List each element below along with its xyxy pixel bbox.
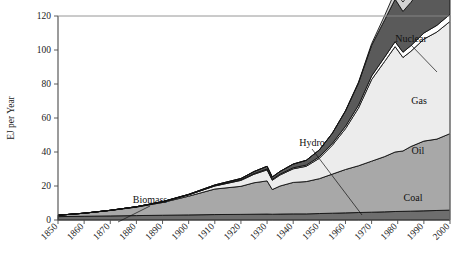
- y-axis-title: EJ per Year: [6, 95, 16, 139]
- x-tick-label: 1860: [65, 221, 86, 242]
- x-tick-label: 1890: [143, 221, 164, 242]
- series-label-nuclear: Nuclear: [395, 33, 427, 44]
- x-tick-label: 1980: [379, 221, 400, 242]
- series-label-biomass: Biomass: [133, 194, 168, 205]
- series-label-hydro: Hydro: [299, 137, 325, 148]
- x-tick-label: 2000: [431, 221, 452, 242]
- series-label-coal: Coal: [404, 192, 423, 203]
- y-tick-label: 20: [42, 181, 52, 191]
- x-tick-label: 1920: [222, 221, 243, 242]
- y-tick-label: 60: [42, 113, 52, 123]
- series-label-oil: Oil: [412, 145, 425, 156]
- x-tick-label: 1880: [117, 221, 138, 242]
- x-tick-label: 1950: [300, 221, 321, 242]
- plot-bands: [58, 0, 450, 220]
- y-tick-label: 100: [37, 45, 52, 55]
- x-tick-label: 1970: [353, 221, 374, 242]
- x-tick-label: 1900: [170, 221, 191, 242]
- y-tick-label: 120: [37, 11, 52, 21]
- y-tick-label: 40: [42, 147, 52, 157]
- x-tick-label: 1960: [326, 221, 347, 242]
- y-tick-label: 80: [42, 79, 52, 89]
- energy-transitions-area-chart: 0204060801001201850186018701880189019001…: [0, 0, 475, 275]
- x-tick-label: 1930: [248, 221, 269, 242]
- series-label-gas: Gas: [411, 95, 427, 106]
- x-tick-label: 1910: [196, 221, 217, 242]
- x-tick-label: 1870: [91, 221, 112, 242]
- x-tick-label: 1850: [39, 221, 60, 242]
- x-tick-label: 1940: [274, 221, 295, 242]
- chart-canvas: 0204060801001201850186018701880189019001…: [0, 0, 475, 275]
- x-tick-label: 1990: [405, 221, 426, 242]
